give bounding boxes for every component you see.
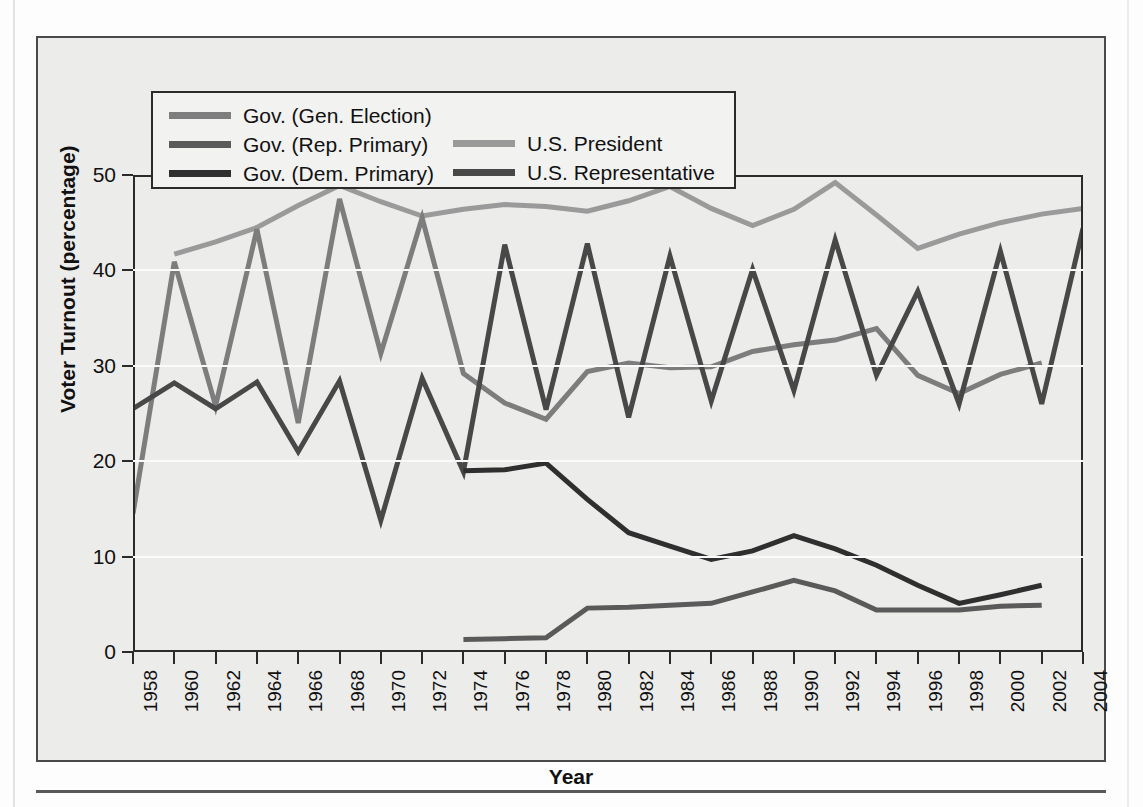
x-axis-tick — [1082, 652, 1084, 664]
x-axis-tick — [256, 652, 258, 664]
x-axis-tick — [793, 652, 795, 664]
page-horizontal-rule — [36, 790, 1106, 793]
y-axis-line — [133, 175, 135, 652]
x-axis-tick-label: 1998 — [966, 670, 988, 712]
legend-column-left: Gov. (Gen. Election)Gov. (Rep. Primary)G… — [169, 101, 434, 188]
x-axis-tick — [710, 652, 712, 664]
figure-panel: Voter Turnout (percentage) 01020304050 1… — [36, 36, 1106, 762]
page-margin-right — [1127, 0, 1129, 807]
x-axis-tick-label: 2000 — [1007, 670, 1029, 712]
x-axis-tick-label: 1990 — [801, 670, 823, 712]
legend-item[interactable]: Gov. (Gen. Election) — [169, 101, 434, 130]
x-axis-title: Year — [38, 765, 1104, 789]
x-axis-tick — [834, 652, 836, 664]
x-axis-tick — [462, 652, 464, 664]
x-axis-tick — [875, 652, 877, 664]
x-axis-tick-label: 1988 — [760, 670, 782, 712]
y-axis-tick — [122, 460, 133, 462]
y-axis-tick — [122, 365, 133, 367]
legend-label: U.S. Representative — [527, 161, 715, 185]
x-axis-tick-label: 1962 — [223, 670, 245, 712]
legend-label: U.S. President — [527, 132, 662, 156]
x-axis-tick — [917, 652, 919, 664]
chart-legend: Gov. (Gen. Election)Gov. (Rep. Primary)G… — [151, 91, 736, 189]
legend-item[interactable]: U.S. President — [453, 129, 715, 158]
legend-swatch-icon — [169, 170, 231, 177]
y-axis-tick-label: 40 — [93, 258, 116, 282]
y-axis-tick-label: 0 — [104, 640, 116, 664]
x-axis-tick — [380, 652, 382, 664]
legend-item[interactable]: U.S. Representative — [453, 158, 715, 187]
x-axis-tick — [999, 652, 1001, 664]
figure-page: Voter Turnout (percentage) 01020304050 1… — [0, 0, 1143, 807]
gridline — [133, 460, 1083, 462]
gridline — [133, 365, 1083, 367]
legend-item[interactable]: Gov. (Rep. Primary) — [169, 130, 434, 159]
x-axis-tick — [1041, 652, 1043, 664]
x-axis-tick-label: 1976 — [512, 670, 534, 712]
legend-swatch-icon — [169, 141, 231, 148]
y-axis-tick-label: 30 — [93, 354, 116, 378]
y-axis-tick — [122, 556, 133, 558]
x-axis-tick — [752, 652, 754, 664]
y-axis-title: Voter Turnout (percentage) — [56, 145, 80, 413]
x-axis-tick-label: 1994 — [883, 670, 905, 712]
y-axis-tick — [122, 269, 133, 271]
x-axis-tick — [545, 652, 547, 664]
x-axis-tick-label: 2004 — [1090, 670, 1112, 712]
legend-swatch-icon — [169, 112, 231, 119]
x-axis-tick — [339, 652, 341, 664]
gridline — [133, 269, 1083, 271]
x-axis-line — [133, 650, 1083, 652]
x-axis-tick-label: 1996 — [925, 670, 947, 712]
x-axis-tick-label: 1980 — [594, 670, 616, 712]
legend-label: Gov. (Gen. Election) — [243, 104, 432, 128]
y-axis-tick-label: 50 — [93, 163, 116, 187]
x-axis-tick — [669, 652, 671, 664]
y-axis-tick-label: 20 — [93, 449, 116, 473]
x-axis-tick-label: 1974 — [470, 670, 492, 712]
x-axis-tick — [504, 652, 506, 664]
x-axis-tick-label: 1986 — [718, 670, 740, 712]
x-axis-tick — [215, 652, 217, 664]
x-axis-tick-label: 1982 — [636, 670, 658, 712]
x-axis-tick-label: 1968 — [347, 670, 369, 712]
x-axis-tick — [297, 652, 299, 664]
legend-swatch-icon — [453, 169, 515, 176]
y-axis-tick-label: 10 — [93, 545, 116, 569]
legend-item[interactable]: Gov. (Dem. Primary) — [169, 159, 434, 188]
x-axis-tick-label: 1958 — [140, 670, 162, 712]
x-axis-tick-label: 1978 — [553, 670, 575, 712]
x-axis-tick — [958, 652, 960, 664]
plot-frame — [133, 175, 1083, 652]
x-axis-tick-label: 1992 — [842, 670, 864, 712]
x-axis-tick — [628, 652, 630, 664]
x-axis-tick-label: 2002 — [1049, 670, 1071, 712]
x-axis-tick-label: 1984 — [677, 670, 699, 712]
legend-label: Gov. (Rep. Primary) — [243, 133, 428, 157]
x-axis-tick — [132, 652, 134, 664]
x-axis-tick — [421, 652, 423, 664]
x-axis-tick-label: 1972 — [429, 670, 451, 712]
x-axis-tick-label: 1966 — [305, 670, 327, 712]
legend-label: Gov. (Dem. Primary) — [243, 162, 434, 186]
legend-column-right: U.S. PresidentU.S. Representative — [453, 129, 715, 187]
x-axis-tick — [173, 652, 175, 664]
x-axis-tick-label: 1960 — [181, 670, 203, 712]
page-margin-left — [13, 0, 15, 807]
x-axis-tick-label: 1964 — [264, 670, 286, 712]
plot-area: 01020304050 1958196019621964196619681970… — [133, 175, 1083, 652]
y-axis-tick — [122, 174, 133, 176]
x-axis-tick-label: 1970 — [388, 670, 410, 712]
legend-swatch-icon — [453, 140, 515, 147]
gridline — [133, 556, 1083, 558]
x-axis-tick — [586, 652, 588, 664]
